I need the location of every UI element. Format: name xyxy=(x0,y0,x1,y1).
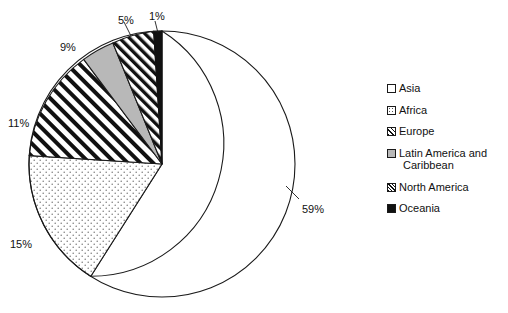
legend-swatch-africa-icon xyxy=(387,106,396,115)
pct-label-africa: 15% xyxy=(10,238,32,250)
legend-label-asia: Asia xyxy=(399,82,420,95)
legend-label-north-america: North America xyxy=(399,181,469,194)
legend-item-europe[interactable]: Europe xyxy=(387,125,505,138)
pct-label-north-america: 5% xyxy=(118,14,134,26)
pct-label-oceania: 1% xyxy=(149,10,165,22)
legend-item-asia[interactable]: Asia xyxy=(387,82,505,95)
legend: Asia Africa Europe Latin America and Car… xyxy=(387,82,505,224)
pct-label-asia: 59% xyxy=(302,203,324,215)
legend-label-oceania: Oceania xyxy=(399,202,440,215)
legend-swatch-oceania-icon xyxy=(387,204,396,213)
legend-label-africa: Africa xyxy=(399,104,427,117)
legend-label-latin-america-line2: Caribbean xyxy=(399,159,487,172)
pie-chart: 5% 1% 9% 11% 15% 59% Asia Africa Europe … xyxy=(0,0,508,313)
legend-label-latin-america: Latin America and Caribbean xyxy=(399,147,487,172)
legend-item-africa[interactable]: Africa xyxy=(387,104,505,117)
legend-item-north-america[interactable]: North America xyxy=(387,181,505,194)
pct-label-latin-america: 9% xyxy=(60,41,76,53)
pct-label-europe: 11% xyxy=(8,117,29,129)
legend-item-oceania[interactable]: Oceania xyxy=(387,202,505,215)
legend-swatch-north-america-icon xyxy=(387,183,396,192)
legend-swatch-asia-icon xyxy=(387,84,396,93)
legend-swatch-europe-icon xyxy=(387,127,396,136)
legend-label-latin-america-line1: Latin America and xyxy=(399,147,487,159)
legend-label-europe: Europe xyxy=(399,125,434,138)
legend-item-latin-america-and-caribbean[interactable]: Latin America and Caribbean xyxy=(387,147,505,172)
legend-swatch-latin-america-icon xyxy=(387,149,396,158)
